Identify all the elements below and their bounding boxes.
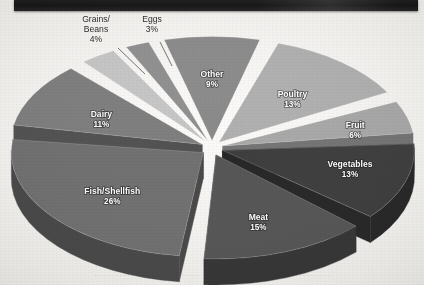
chart-canvas: Other9%Poultry13%Fruit6%Vegetables13%Mea… [0, 0, 424, 285]
pie-chart: Other9%Poultry13%Fruit6%Vegetables13%Mea… [0, 0, 424, 285]
vignette-overlay [0, 0, 424, 285]
